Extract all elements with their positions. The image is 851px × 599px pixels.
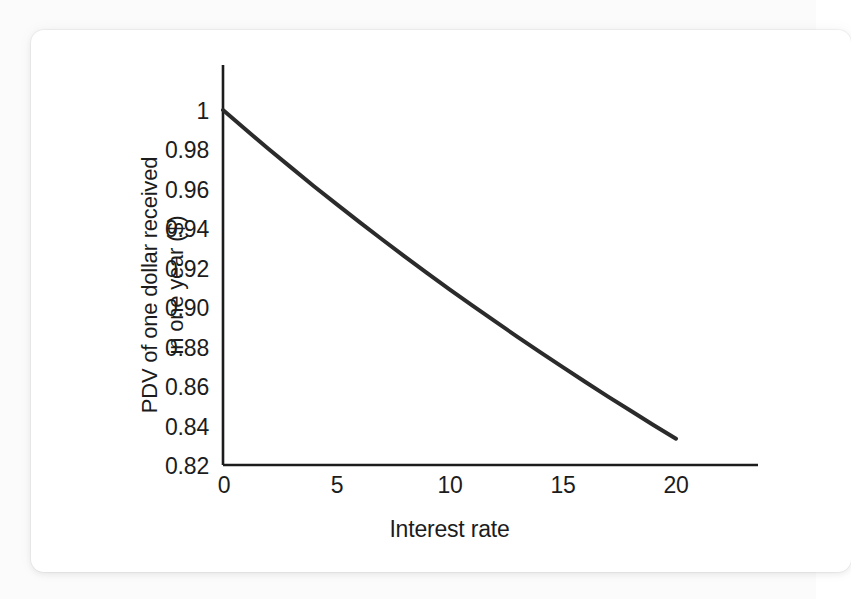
y-axis-title-line1: PDV of one dollar received [137,157,162,414]
x-tick-label: 0 [184,474,264,497]
x-tick-label: 20 [636,474,716,497]
x-tick-label: 15 [523,474,603,497]
x-tick-label: 10 [410,474,490,497]
y-axis-title-line2: in one year ($) [163,75,189,495]
x-axis-title: Interest rate [223,518,676,541]
x-tick-label: 5 [297,474,377,497]
y-axis-title: PDV of one dollar received in one year (… [137,75,189,495]
